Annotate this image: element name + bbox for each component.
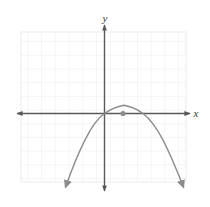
coordinate-plane-figure: x y (0, 0, 210, 207)
y-axis-label: y (102, 12, 108, 24)
x-axis-label: x (193, 107, 199, 119)
grid-lines (21, 32, 186, 182)
graph-canvas: x y (0, 0, 210, 207)
marked-point (120, 111, 125, 116)
